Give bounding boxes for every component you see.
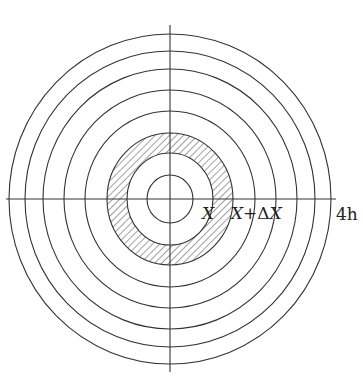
label-x: X	[200, 203, 215, 223]
concentric-circles-diagram: X X+ΔX 4h	[0, 0, 363, 385]
hatched-annulus	[0, 0, 363, 385]
label-x-plus-delta-x: X+ΔX	[229, 203, 283, 223]
label-4h: 4h	[336, 204, 358, 224]
label-x-plus: X+	[229, 203, 257, 223]
label-delta: Δ	[257, 203, 269, 223]
label-x2: X	[268, 203, 283, 223]
